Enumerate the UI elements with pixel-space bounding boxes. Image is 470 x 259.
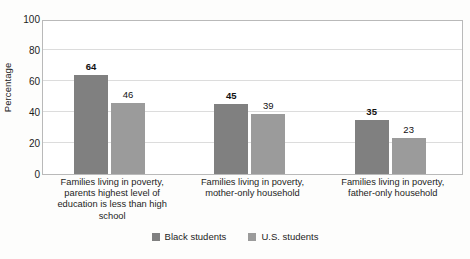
bar-value-group0-series0: 64 <box>71 62 111 72</box>
x-axis-label-group1: Families living in poverty,mother-only h… <box>182 177 322 199</box>
x-axis-category-labels: Families living in poverty,parents highe… <box>42 177 463 227</box>
bar-group1-series0[interactable] <box>214 104 248 174</box>
x-axis-label-group0-line3: school <box>42 211 182 222</box>
bar-chart: Percentage 020406080100 644645393523 Fam… <box>0 0 470 259</box>
x-axis-label-group0: Families living in poverty,parents highe… <box>42 177 182 222</box>
bar-value-group1-series1: 39 <box>248 101 288 111</box>
bar-group0-series1[interactable] <box>111 103 145 174</box>
x-axis-label-group0-line2: education is less than high <box>42 199 182 210</box>
bar-group0-series0[interactable] <box>74 75 108 174</box>
y-axis-tick-labels: 020406080100 <box>14 20 40 175</box>
bar-value-group1-series0: 45 <box>211 91 251 101</box>
x-axis-label-group1-line1: mother-only household <box>182 188 322 199</box>
bar-value-group2-series1: 23 <box>389 125 429 135</box>
legend-label-1: U.S. students <box>261 232 318 242</box>
bar-group2-series1[interactable] <box>392 138 426 174</box>
x-axis-label-group2-line0: Families living in poverty, <box>323 177 463 188</box>
x-axis-label-group1-line0: Families living in poverty, <box>182 177 322 188</box>
x-axis-label-group2: Families living in poverty,father-only h… <box>323 177 463 199</box>
legend-item-0[interactable]: Black students <box>152 232 227 242</box>
y-axis-tick-60: 60 <box>14 77 40 87</box>
gridline-80 <box>43 49 462 50</box>
y-axis-tick-80: 80 <box>14 46 40 56</box>
y-axis-tick-0: 0 <box>14 170 40 180</box>
chart-legend: Black studentsU.S. students <box>0 232 470 242</box>
bar-value-group0-series1: 46 <box>108 90 148 100</box>
x-axis-label-group0-line0: Families living in poverty, <box>42 177 182 188</box>
y-axis-tick-40: 40 <box>14 108 40 118</box>
y-axis-tick-20: 20 <box>14 139 40 149</box>
bar-group1-series1[interactable] <box>251 114 285 174</box>
x-axis-label-group2-line1: father-only household <box>323 188 463 199</box>
bar-group2-series0[interactable] <box>355 120 389 174</box>
bar-value-group2-series0: 35 <box>352 107 392 117</box>
legend-swatch-0 <box>152 233 160 241</box>
y-axis-title-text: Percentage <box>3 63 14 113</box>
legend-swatch-1 <box>248 233 256 241</box>
legend-label-0: Black students <box>165 232 227 242</box>
legend-item-1[interactable]: U.S. students <box>248 232 318 242</box>
plot-area: 644645393523 <box>42 20 463 175</box>
x-axis-label-group0-line1: parents highest level of <box>42 188 182 199</box>
y-axis-tick-100: 100 <box>14 15 40 25</box>
